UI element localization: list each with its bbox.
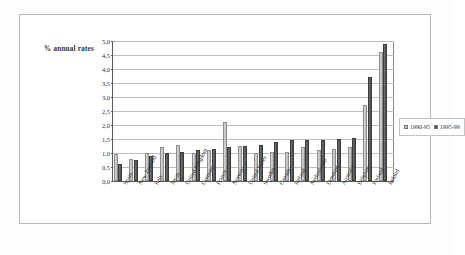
legend-item-1995-99: 1995-99 bbox=[434, 124, 460, 130]
bar-spain-1990-95 bbox=[114, 154, 118, 181]
bar-group bbox=[207, 41, 223, 181]
bar-group bbox=[222, 41, 238, 181]
y-axis-tick-label: 3,0 bbox=[102, 94, 110, 101]
y-axis-tick-label: 4,5 bbox=[102, 52, 110, 59]
y-axis-tick-label: 1,0 bbox=[102, 150, 110, 157]
bar-new-zealand-1995-99 bbox=[134, 160, 138, 181]
bar-spain-1995-99 bbox=[118, 164, 122, 181]
y-axis-tick-label: 3,5 bbox=[102, 80, 110, 87]
chart-frame: % annual rates 5,04,54,03,53,02,52,01,51… bbox=[19, 14, 431, 224]
y-axis-tick-label: 5,0 bbox=[102, 38, 110, 45]
y-axis-tick-label: 4,0 bbox=[102, 66, 110, 73]
y-axis-tick-label: 2,0 bbox=[102, 122, 110, 129]
y-axis-caption: % annual rates bbox=[44, 45, 94, 53]
bar-group bbox=[129, 41, 145, 181]
bar-united-states-1995-99 bbox=[243, 146, 247, 181]
legend-item-1990-95: 1990-95 bbox=[404, 124, 430, 130]
bar-group bbox=[332, 41, 348, 181]
bar-group bbox=[363, 41, 379, 181]
bar-japan-1995-99 bbox=[165, 153, 169, 181]
legend-label: 1995-99 bbox=[440, 124, 460, 130]
bar-group bbox=[113, 41, 129, 181]
y-axis-tick-label: 0,0 bbox=[102, 178, 110, 185]
bar-group bbox=[300, 41, 316, 181]
bar-group bbox=[285, 41, 301, 181]
bar-belgium-1995-99 bbox=[352, 138, 356, 181]
bar-group bbox=[269, 41, 285, 181]
bar-australia-1995-99 bbox=[337, 139, 341, 181]
bar-ireland-1995-99 bbox=[383, 44, 387, 181]
bar-group bbox=[347, 41, 363, 181]
bar-group bbox=[175, 41, 191, 181]
bar-ireland-1990-95 bbox=[379, 52, 383, 181]
bar-group bbox=[238, 41, 254, 181]
bar-canada-1995-99 bbox=[274, 142, 278, 181]
legend-label: 1990-95 bbox=[410, 124, 430, 130]
bar-netherlands-1995-99 bbox=[305, 140, 309, 181]
x-axis-labels: SpainNew ZealandItalyJapanUnited Kingdom… bbox=[112, 183, 393, 239]
legend-swatch-icon bbox=[434, 125, 438, 129]
y-axis-tick-label: 0,5 bbox=[102, 164, 110, 171]
bar-group bbox=[378, 41, 394, 181]
y-axis-tick-mark bbox=[111, 181, 114, 182]
y-axis-tick-label: 1,5 bbox=[102, 136, 110, 143]
chart-legend: 1990-951995-99 bbox=[399, 118, 465, 136]
bar-norway-1995-99 bbox=[227, 147, 231, 181]
bar-group bbox=[160, 41, 176, 181]
legend-swatch-icon bbox=[404, 125, 408, 129]
y-axis-tick-label: 2,5 bbox=[102, 108, 110, 115]
bar-united-kingdom-1995-99 bbox=[180, 152, 184, 181]
bar-iceland-1995-99 bbox=[290, 140, 294, 181]
